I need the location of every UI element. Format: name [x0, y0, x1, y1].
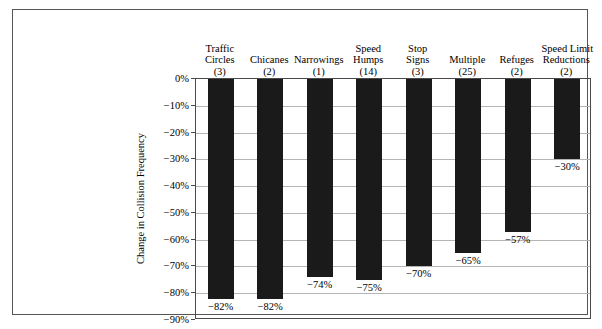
y-tick-label: −40% — [164, 180, 189, 191]
y-axis-tick-group: 0%−10%−20%−30%−40%−50%−60%−70%−80%−90% — [13, 10, 195, 314]
category-name-line: Multiple — [443, 54, 493, 66]
category-name-line: Chicanes — [245, 54, 295, 66]
category-name-line: Refuges — [492, 54, 542, 66]
y-tick-label: −80% — [164, 287, 189, 298]
category-name-line: Stop — [393, 43, 443, 55]
bar[interactable] — [406, 79, 432, 266]
category-label: SpeedHumps(14) — [344, 43, 394, 78]
category-count: (3) — [195, 66, 245, 78]
bar-value-label: −30% — [555, 161, 580, 172]
y-tick-label: 0% — [175, 73, 189, 84]
bar-slot: −70% — [394, 79, 444, 318]
bar[interactable] — [307, 79, 333, 277]
bar-series: −82%−82%−74%−75%−70%−65%−57%−30% — [196, 79, 590, 318]
bar[interactable] — [208, 79, 234, 299]
bar-value-label: −74% — [307, 279, 332, 290]
category-count: (2) — [492, 66, 542, 78]
bar-slot: −82% — [196, 79, 246, 318]
category-count: (2) — [245, 66, 295, 78]
y-tick-label: −90% — [164, 314, 189, 325]
category-count: (25) — [443, 66, 493, 78]
bar[interactable] — [257, 79, 283, 299]
category-name-line: Circles — [195, 54, 245, 66]
category-label: Chicanes(2) — [245, 54, 295, 77]
category-label: Multiple(25) — [443, 54, 493, 77]
y-tick-label: −70% — [164, 260, 189, 271]
category-label: TrafficCircles(3) — [195, 43, 245, 78]
category-label: Speed LimitReductions(2) — [542, 43, 592, 78]
category-count: (14) — [344, 66, 394, 78]
y-tick-label: −10% — [164, 99, 189, 110]
category-label: Refuges(2) — [492, 54, 542, 77]
bar-value-label: −75% — [357, 282, 382, 293]
bar[interactable] — [455, 79, 481, 253]
category-name-line: Speed — [344, 43, 394, 55]
bar-value-label: −57% — [505, 234, 530, 245]
bar-slot: −74% — [295, 79, 345, 318]
y-tick-mark — [191, 319, 195, 320]
y-tick-label: −50% — [164, 206, 189, 217]
category-label: Narrowings(1) — [294, 54, 344, 77]
plot-area: −82%−82%−74%−75%−70%−65%−57%−30% — [195, 78, 591, 319]
figure-frame: TrafficCircles(3)Chicanes(2)Narrowings(1… — [12, 9, 588, 315]
category-name-line: Signs — [393, 54, 443, 66]
y-tick-label: −60% — [164, 233, 189, 244]
category-name-line: Humps — [344, 54, 394, 66]
bar-slot: −65% — [444, 79, 494, 318]
category-header-row: TrafficCircles(3)Chicanes(2)Narrowings(1… — [195, 19, 591, 78]
category-count: (1) — [294, 66, 344, 78]
category-name-line: Traffic — [195, 43, 245, 55]
category-count: (2) — [542, 66, 592, 78]
category-name-line: Speed Limit — [542, 43, 592, 55]
bar-value-label: −82% — [258, 301, 283, 312]
bar-value-label: −82% — [208, 301, 233, 312]
category-name-line: Narrowings — [294, 54, 344, 66]
bar-slot: −75% — [345, 79, 395, 318]
bar-value-label: −65% — [456, 255, 481, 266]
bar[interactable] — [356, 79, 382, 280]
bar-slot: −30% — [543, 79, 593, 318]
category-count: (3) — [393, 66, 443, 78]
category-label: StopSigns(3) — [393, 43, 443, 78]
bar-slot: −82% — [246, 79, 296, 318]
bar-value-label: −70% — [406, 268, 431, 279]
bar[interactable] — [554, 79, 580, 159]
bar[interactable] — [505, 79, 531, 232]
bar-slot: −57% — [493, 79, 543, 318]
y-tick-label: −20% — [164, 126, 189, 137]
category-name-line: Reductions — [542, 54, 592, 66]
y-tick-label: −30% — [164, 153, 189, 164]
